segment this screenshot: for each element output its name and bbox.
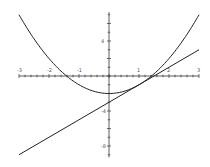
axes (19, 12, 199, 157)
x-tick-label: 1 (137, 67, 140, 73)
y-tick-label: 4 (101, 38, 104, 44)
x-tick-label: 3 (197, 67, 200, 73)
x-tick-label: -1 (77, 67, 82, 73)
x-tick-label: -2 (47, 67, 52, 73)
y-tick-label: -4 (101, 108, 106, 114)
function-plot: -3-2-11234-4-8 (0, 0, 210, 167)
x-tick-label: -3 (17, 67, 22, 73)
y-tick-label: -8 (101, 143, 106, 149)
